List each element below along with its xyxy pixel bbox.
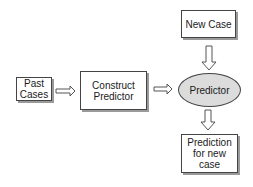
past-cases-label: Past Cases <box>20 78 48 100</box>
new-case-node: New Case <box>181 10 236 38</box>
arrow-construct-to-predictor <box>154 84 172 94</box>
construct-predictor-node: Construct Predictor <box>80 71 147 110</box>
arrow-predictor-to-prediction <box>201 110 215 130</box>
arrow-past-to-construct <box>56 86 75 96</box>
arrow-newcase-to-predictor <box>202 46 216 70</box>
predictor-label: Predictor <box>189 85 229 96</box>
prediction-label: Prediction for new case <box>182 137 237 170</box>
past-cases-node: Past Cases <box>16 77 52 101</box>
predictor-node: Predictor <box>178 73 241 107</box>
prediction-node: Prediction for new case <box>181 134 238 173</box>
new-case-label: New Case <box>185 19 231 30</box>
construct-predictor-label: Construct Predictor <box>92 80 135 102</box>
